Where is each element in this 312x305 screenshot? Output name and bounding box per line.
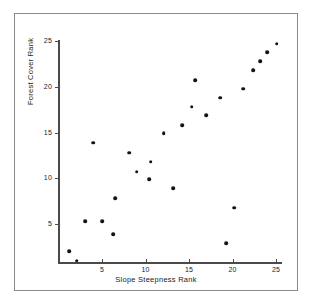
y-tick-mark (55, 87, 58, 88)
data-point (275, 42, 279, 46)
x-tick-label: 25 (268, 266, 284, 273)
data-point (232, 206, 236, 210)
y-tick-mark (55, 178, 58, 179)
x-axis-line (58, 262, 282, 264)
data-point (241, 87, 245, 91)
data-point (113, 197, 117, 201)
data-point (112, 232, 116, 236)
y-tick-mark (55, 41, 58, 42)
x-tick-label: 10 (138, 266, 154, 273)
data-point (127, 151, 131, 155)
data-point (67, 250, 71, 254)
y-tick-label: 5 (36, 220, 52, 227)
scatter-plot-figure: 510152025 510152025 Forest Cover Rank Sl… (0, 0, 312, 305)
y-axis-title: Forest Cover Rank (26, 5, 35, 105)
data-point (225, 241, 229, 245)
y-tick-label: 10 (36, 174, 52, 181)
data-point (172, 187, 176, 191)
data-point (100, 219, 104, 223)
x-tick-label: 15 (181, 266, 197, 273)
x-tick-mark (276, 259, 277, 262)
data-point (190, 105, 194, 109)
y-tick-mark (55, 224, 58, 225)
plot-area: 510152025 510152025 Forest Cover Rank Sl… (0, 0, 312, 305)
x-tick-mark (233, 259, 234, 262)
y-tick-label: 15 (36, 129, 52, 136)
data-point (193, 79, 197, 83)
x-tick-label: 20 (225, 266, 241, 273)
data-point (84, 219, 88, 223)
data-point (75, 259, 79, 263)
data-point (219, 96, 223, 100)
data-point (180, 123, 184, 127)
y-tick-label: 20 (36, 83, 52, 90)
y-tick-mark (55, 133, 58, 134)
x-axis-title: Slope Steepness Rank (0, 275, 312, 284)
data-point (252, 68, 256, 72)
data-point (147, 177, 151, 181)
data-point (266, 50, 270, 54)
x-tick-mark (146, 259, 147, 262)
data-point (135, 170, 139, 174)
data-point (149, 160, 153, 164)
data-point (92, 141, 96, 145)
data-point (162, 132, 166, 136)
y-tick-label: 25 (36, 37, 52, 44)
x-tick-label: 5 (94, 266, 110, 273)
data-point (259, 59, 263, 63)
x-tick-mark (189, 259, 190, 262)
data-point (205, 113, 209, 117)
y-axis-line (58, 40, 60, 263)
x-tick-mark (102, 259, 103, 262)
